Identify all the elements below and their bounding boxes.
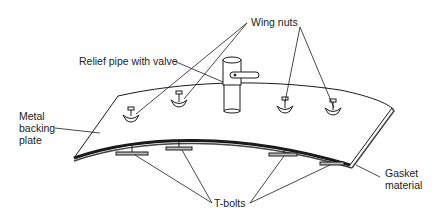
wing-nut-1 — [123, 107, 139, 122]
label-wing-nuts: Wing nuts — [251, 16, 298, 28]
diagram-canvas: Wing nuts Relief pipe with valve Metal b… — [0, 0, 440, 215]
wing-nut-2 — [171, 91, 187, 107]
wing-nut-3 — [277, 97, 293, 113]
label-t-bolts: T-bolts — [214, 197, 246, 209]
backing-plate-illustration — [0, 0, 440, 215]
wing-nut-4 — [325, 99, 341, 115]
label-metal-backing-plate: Metal backing plate — [19, 110, 55, 146]
label-relief-pipe: Relief pipe with valve — [79, 55, 178, 67]
relief-pipe-valve — [223, 57, 259, 113]
label-gasket-material: Gasket material — [385, 167, 422, 191]
gasket-edge — [74, 108, 394, 168]
